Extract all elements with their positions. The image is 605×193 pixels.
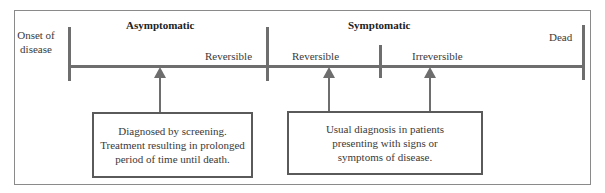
screening-diagnosis-box: Diagnosed by screening. Treatment result… [92,112,253,178]
tick-irreversible [379,45,382,78]
tick-symptom-onset [266,27,269,81]
label-irreversible: Irreversible [412,50,463,63]
arrow-usual-right-shaft [429,77,431,112]
tick-onset [68,27,71,81]
usual-diagnosis-text: Usual diagnosis in patients presenting w… [295,122,475,164]
tick-death [582,25,585,80]
arrow-usual-left-shaft [328,77,330,112]
phase-symptomatic-heading: Symptomatic [348,19,410,32]
arrow-screening-shaft [159,77,161,112]
label-reversible-asymptomatic: Reversible [205,50,252,63]
screening-diagnosis-text: Diagnosed by screening. Treatment result… [100,124,245,166]
phase-asymptomatic-heading: Asymptomatic [126,19,194,32]
label-dead: Dead [549,31,572,44]
onset-label: Onset of disease [16,28,56,56]
label-reversible-symptomatic: Reversible [292,50,339,63]
usual-diagnosis-box: Usual diagnosis in patients presenting w… [287,111,483,175]
